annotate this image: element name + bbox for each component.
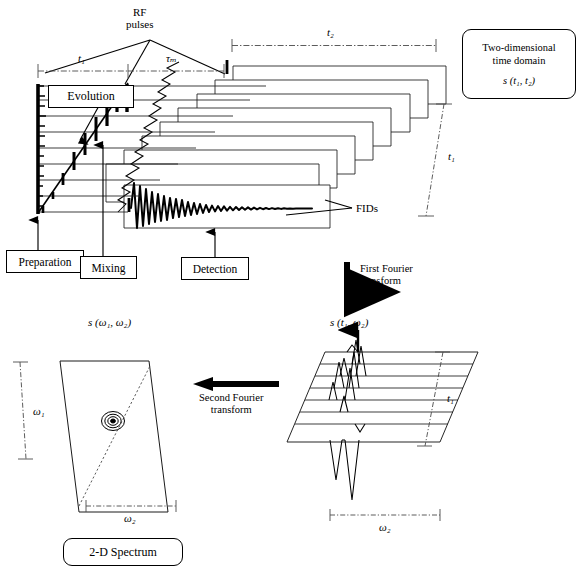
axis-label-omega2-spectrum: ω₂ [379, 521, 391, 533]
figure-root: RF pulses t₁ τₘ t₂ Evolution Preparation… [0, 0, 586, 575]
spectrum-caption-text: 2-D Spectrum [89, 545, 157, 560]
axis-omega2-spectrum [330, 509, 440, 521]
axis-label-t1-stack: t₁ [448, 150, 455, 162]
preparation-box: Preparation [6, 250, 84, 273]
axis-label-tau-m: τₘ [166, 52, 177, 64]
contour-spectrum-peak [102, 412, 125, 431]
axis-omega1-contour [13, 362, 33, 459]
time-domain-box: Two-dimensional time domain s (t₁, t₂) [462, 29, 576, 99]
fids-label: FIDs [356, 202, 378, 214]
spectrum-caption-box: 2-D Spectrum [63, 538, 183, 566]
time-domain-line1: Two-dimensional [482, 41, 555, 54]
axis-t1-stack [418, 104, 452, 216]
evolution-box: Evolution [48, 85, 134, 108]
second-fourier-arrow [193, 377, 279, 391]
first-fourier-label: First Fourier transform [360, 263, 413, 287]
axis-label-t2: t₂ [327, 26, 334, 38]
rf-pulse-leaders [45, 40, 225, 84]
mixing-box: Mixing [80, 256, 137, 279]
s-t1-omega2-label: s (t₁, ω₂) [330, 316, 368, 328]
time-domain-signal: s (t₁, t₂) [503, 74, 535, 87]
s-omega1-omega2-label: s (ω₁, ω₂) [88, 316, 131, 328]
contour-spectrum-frame [60, 361, 168, 512]
axis-label-omega2-contour: ω₂ [124, 512, 136, 524]
axis-label-omega1-contour: ω₁ [33, 405, 45, 417]
detection-box: Detection [181, 257, 249, 280]
rf-pulses-label: RF pulses [126, 6, 154, 31]
preparation-pulse-edge [38, 84, 46, 214]
axis-t2 [232, 39, 436, 52]
time-domain-line2: time domain [493, 54, 546, 67]
axis-label-t1-spectrum: t₁ [447, 392, 454, 404]
axis-label-t1: t₁ [78, 52, 85, 64]
second-fourier-label: Second Fourier transform [199, 392, 263, 416]
